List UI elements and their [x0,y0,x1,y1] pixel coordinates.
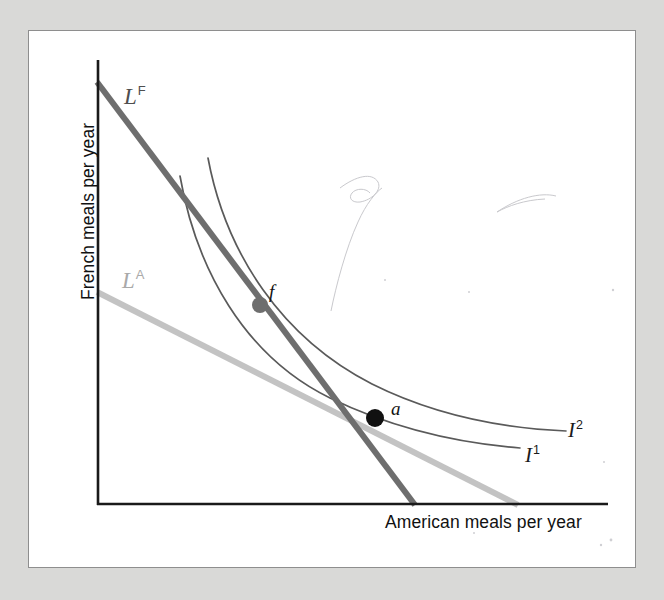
indifference-curve-i1-letter: I [525,443,532,467]
indifference-curve-i1-label: I1 [525,443,540,468]
indifference-curve-i1-superscript: 1 [532,443,540,457]
diagram-canvas [0,0,664,600]
indifference-curve-i2 [208,158,566,431]
x-axis-label: American meals per year [385,512,582,533]
point-a-marker [366,409,384,427]
indifference-curve-i2-superscript: 2 [575,418,583,432]
budget-line-lf-letter: L [124,84,137,109]
budget-line-lf-label: LF [124,84,146,110]
budget-line-la-letter: L [122,268,135,293]
point-f-label: f [269,281,274,303]
budget-line-la-label: LA [122,268,144,294]
point-f-marker [252,297,268,313]
budget-line-la [97,292,518,505]
y-axis-label: French meals per year [78,123,99,300]
indifference-curve-i2-label: I2 [568,418,583,443]
scan-speckles [384,279,614,546]
budget-line-la-superscript: A [135,267,145,282]
figure-page: French meals per year American meals per… [0,0,664,600]
point-a-label: a [391,398,401,420]
scan-artifacts [331,176,556,311]
budget-line-lf-superscript: F [137,83,146,98]
indifference-curve-i2-letter: I [568,418,575,442]
budget-line-lf [97,82,415,505]
indifference-curve-i1 [180,176,520,448]
